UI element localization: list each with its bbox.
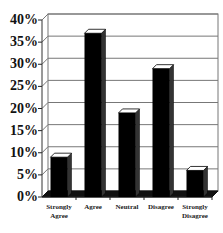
bar-disagree — [153, 69, 170, 197]
y-tick-label: 20% — [0, 102, 38, 116]
bar-top — [85, 29, 106, 33]
gridline-side — [42, 58, 48, 64]
y-tick-label: 15% — [0, 124, 38, 138]
y-tick-label: 10% — [0, 146, 38, 160]
bar-top — [119, 109, 140, 113]
bar-side — [204, 166, 208, 197]
bar-neutral — [119, 113, 136, 197]
bar-top — [51, 153, 72, 157]
bar-side — [68, 153, 72, 197]
x-category-label: StronglyDisagree — [175, 203, 215, 221]
gridline-side — [42, 125, 48, 131]
y-tick-label: 0% — [0, 190, 38, 204]
bar-agree — [85, 33, 102, 197]
bar-strongly-disagree — [187, 170, 204, 197]
gridline-side — [42, 36, 48, 42]
y-tick-label: 25% — [0, 79, 38, 93]
bar-strongly-agree — [51, 157, 68, 197]
bar-top — [153, 65, 174, 69]
y-tick-label: 35% — [0, 35, 38, 49]
bar-side — [102, 29, 106, 197]
y-tick-label: 5% — [0, 168, 38, 182]
gridline-side — [42, 147, 48, 153]
wall-edge — [42, 14, 48, 20]
bar-side — [170, 65, 174, 197]
y-tick-label: 40% — [0, 13, 38, 27]
bar-top — [187, 166, 208, 170]
gridline-side — [42, 80, 48, 86]
likert-bar-chart: 0%5%10%15%20%25%30%35%40% StronglyAgreeA… — [0, 0, 223, 233]
gridline-side — [42, 169, 48, 175]
bar-side — [136, 109, 140, 197]
y-tick-label: 30% — [0, 57, 38, 71]
gridline-side — [42, 103, 48, 109]
